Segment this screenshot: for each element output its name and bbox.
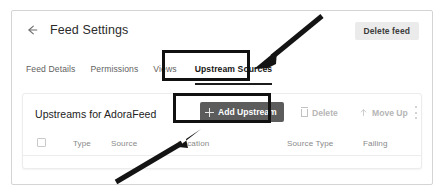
back-arrow-icon[interactable]	[25, 23, 39, 37]
delete-feed-button[interactable]: Delete feed	[355, 22, 419, 40]
select-all-checkbox[interactable]	[37, 138, 46, 147]
column-header-location[interactable]: Location	[178, 139, 209, 148]
annotation-highlight-add-upstream-button	[173, 93, 271, 123]
move-up-label: Move Up	[372, 108, 408, 118]
annotation-highlight-upstream-sources-tab	[162, 50, 250, 81]
upstreams-panel-title: Upstreams for AdoraFeed	[35, 108, 156, 120]
column-header-failing[interactable]: Failing	[363, 139, 388, 148]
tab-feed-details[interactable]: Feed Details	[26, 64, 75, 75]
page-title: Feed Settings	[50, 23, 128, 37]
kebab-dot	[415, 112, 417, 114]
kebab-menu-icon[interactable]	[414, 106, 417, 119]
column-header-type[interactable]: Type	[73, 139, 91, 148]
delete-upstream-button[interactable]: Delete	[295, 104, 344, 121]
column-header-source[interactable]: Source	[111, 139, 137, 148]
tab-permissions[interactable]: Permissions	[90, 64, 138, 75]
column-header-source-type[interactable]: Source Type	[287, 139, 333, 148]
trash-icon	[301, 109, 308, 117]
delete-label: Delete	[312, 108, 338, 118]
page-header: Feed Settings Delete feed	[12, 11, 432, 49]
arrow-up-icon	[359, 108, 368, 117]
move-up-button[interactable]: Move Up	[353, 104, 414, 121]
upstreams-table-header: Type Source Location Source Type Failing	[23, 133, 421, 156]
kebab-dot	[415, 106, 417, 108]
kebab-dot	[415, 117, 417, 119]
